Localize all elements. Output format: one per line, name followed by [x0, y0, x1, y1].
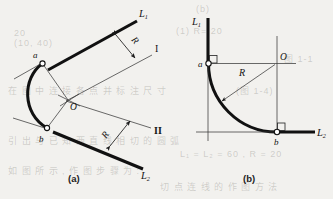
tangent-arc-a — [28, 64, 47, 129]
label-aux-I: I — [155, 43, 158, 54]
caption-panel-b: (b) — [243, 173, 255, 184]
label-L2-a: L2 — [140, 170, 150, 182]
figure-page: 20 (b) (1) R= 20 (10, 40) 图 1-1 在 图 中 连 … — [0, 0, 333, 199]
tangent-point-a-node — [40, 61, 45, 66]
label-R-upper-a: R — [129, 34, 141, 46]
radius-line-Oa — [43, 64, 69, 101]
tangent-point-b-node-b — [274, 129, 279, 134]
label-L2-b: L2 — [316, 127, 326, 139]
radius-arrow-lower-a — [110, 121, 130, 146]
label-L1-b: L1 — [191, 16, 201, 28]
panel-a: L1 L2 R R I II O a b (a) — [13, 8, 162, 184]
tangent-point-b-node — [44, 125, 49, 130]
panel-b: L1 L2 R O a b (b) — [191, 16, 326, 184]
line-L2-a — [53, 132, 143, 169]
label-point-b-b: b — [274, 137, 279, 147]
tangent-extension-upper-a — [14, 62, 44, 79]
label-center-O-a: O — [70, 102, 77, 112]
line-L1-a — [48, 21, 137, 70]
figure-drawing: L1 L2 R R I II O a b (a) — [0, 0, 333, 199]
label-L1-a: L1 — [138, 8, 148, 20]
label-aux-II: II — [154, 125, 162, 136]
label-point-b: b — [39, 134, 44, 144]
tangent-point-a-node-b — [206, 61, 211, 66]
label-R-b: R — [238, 67, 245, 78]
radius-line-Ob — [47, 100, 68, 128]
label-center-O-b: O — [280, 52, 287, 62]
caption-panel-a: (a) — [68, 173, 80, 184]
radius-line-b — [222, 65, 275, 102]
label-point-a: a — [33, 50, 38, 60]
label-R-lower-a: R — [99, 129, 111, 141]
label-point-a-b: a — [198, 59, 203, 69]
